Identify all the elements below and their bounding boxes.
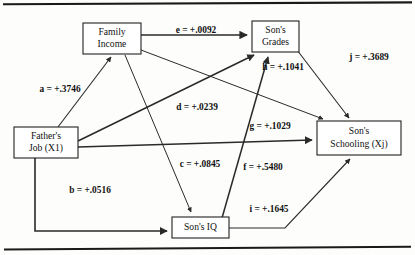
node-fathers-job-line1: Father's (31, 130, 61, 141)
node-sons-schooling-line1: Son's (349, 125, 370, 136)
path-h-arrow (78, 55, 254, 141)
path-d-arrow (141, 50, 323, 119)
edge-label-d: d = +.0239 (176, 102, 218, 112)
path-c-arrow (125, 55, 191, 212)
edge-label-f: f = +.5480 (243, 162, 283, 172)
node-sons-grades-line1: Son's (265, 24, 286, 35)
node-family-income-line2: Income (98, 38, 127, 49)
node-sons-iq-line1: Son's IQ (184, 221, 217, 232)
node-sons-grades[interactable]: Son's Grades (252, 21, 299, 52)
node-fathers-job[interactable]: Father's Job (X1) (14, 127, 78, 158)
node-family-income[interactable]: Family Income (83, 23, 141, 54)
node-sons-grades-line2: Grades (262, 36, 289, 47)
path-j-arrow (297, 50, 349, 118)
node-fathers-job-line2: Job (X1) (29, 142, 63, 154)
node-sons-iq[interactable]: Son's IQ (172, 217, 229, 238)
node-sons-schooling[interactable]: Son's Schooling (Xj) (317, 121, 401, 155)
edge-label-i: i = +.1645 (249, 204, 288, 214)
path-diagram-figure: Family Income Son's Grades Father's Job … (0, 0, 415, 255)
diagram-canvas: Family Income Son's Grades Father's Job … (0, 0, 415, 255)
edge-label-e: e = +.0092 (176, 25, 217, 35)
edge-label-h: h = +.1041 (262, 62, 304, 72)
bottom-rule (4, 247, 411, 250)
edge-label-a: a = +.3746 (39, 84, 80, 94)
node-sons-schooling-line2: Schooling (Xj) (330, 138, 387, 150)
edge-label-b: b = +.0516 (69, 185, 111, 195)
top-rule (3, 2, 412, 4)
path-g-arrow (78, 140, 312, 147)
edge-label-g: g = +.1029 (249, 121, 290, 131)
path-f-arrow (222, 57, 268, 218)
edge-label-c: c = +.0845 (180, 159, 221, 169)
edge-label-j: j = +.3689 (348, 52, 389, 62)
node-family-income-line1: Family (98, 26, 125, 37)
